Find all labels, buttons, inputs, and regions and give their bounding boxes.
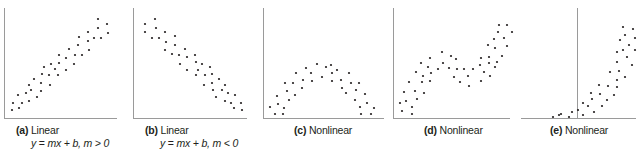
data-point [284,82,286,84]
data-point [240,102,242,104]
data-point [87,31,89,33]
data-point [288,99,290,101]
data-point [421,81,423,83]
data-point [463,68,465,70]
data-point [506,24,508,26]
caption-b-label: Linear [161,124,189,136]
formula-b: y = mx + b, m < 0 [160,137,238,149]
data-point [360,113,362,115]
data-point [36,96,38,98]
data-point [195,74,197,76]
data-point [28,84,30,86]
data-point [571,111,573,113]
data-point [154,18,156,20]
data-point [58,54,60,56]
scatter-panel-e [521,8,636,119]
data-point [366,102,368,104]
data-point [632,28,634,30]
data-point [234,94,236,96]
data-point [186,56,188,58]
data-point [57,74,59,76]
data-point [493,38,495,40]
data-point [295,72,297,74]
data-point [480,57,482,59]
data-point [48,74,50,76]
data-point [77,44,79,46]
data-point [616,79,618,81]
formula-b-eq: = [165,137,176,149]
data-point [97,18,99,20]
data-point [43,66,45,68]
data-point [560,113,562,115]
data-point [292,82,294,84]
data-point [49,84,51,86]
data-point [97,27,99,29]
scatter-panel-c [263,8,384,119]
data-point [582,114,584,116]
data-point [488,56,490,58]
data-point [325,66,327,68]
data-point [211,82,213,84]
data-point [414,90,416,92]
data-point [558,114,560,116]
data-point [411,113,413,115]
data-point [68,48,70,50]
data-point [174,44,176,46]
data-point [209,66,211,68]
data-point [215,96,217,98]
data-point [587,105,589,107]
data-point [178,54,180,56]
data-point [616,86,618,88]
data-point [628,44,630,46]
formula-a-eq: = [36,137,47,149]
data-point [345,92,347,94]
data-point [408,81,410,83]
data-point [411,106,413,108]
data-point [453,76,455,78]
data-point [197,69,199,71]
data-point [631,64,633,66]
data-point [599,93,601,95]
data-point [50,63,52,65]
data-point [294,94,296,96]
data-point [429,80,431,82]
data-point [74,54,76,56]
data-point [179,63,181,65]
data-point [455,58,457,60]
data-point [487,44,489,46]
caption-e-label: Nonlinear [565,124,608,136]
data-point [609,71,611,73]
scatter-panel-a [4,8,117,119]
data-point [282,113,284,115]
data-point [184,48,186,50]
data-point [58,62,60,64]
data-point [494,66,496,68]
data-point [302,79,304,81]
data-point [221,89,223,91]
data-point [28,100,30,102]
data-point [467,75,469,77]
data-point [591,98,593,100]
data-point [65,57,67,59]
data-point [624,76,626,78]
data-point [41,73,43,75]
data-point [203,84,205,86]
data-point [33,78,35,80]
data-point [144,23,146,25]
data-point [626,56,628,58]
caption-c: (c) Nonlinear [294,124,352,136]
data-point [348,72,350,74]
data-point [269,106,271,108]
data-point [494,47,496,49]
data-point [301,87,303,89]
data-point [164,49,166,51]
caption-d: (d) Nonlinear [424,124,483,136]
data-point [277,103,279,105]
data-point [174,35,176,37]
data-point [330,64,332,66]
data-point [88,49,90,51]
data-point [311,80,313,82]
data-point [201,63,203,65]
caption-e-tag: (e) [550,124,562,136]
data-point [93,37,95,39]
